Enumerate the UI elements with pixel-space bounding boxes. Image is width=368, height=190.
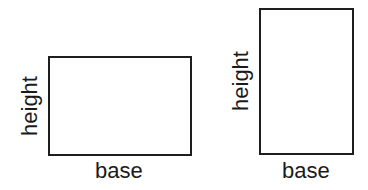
tall-rectangle (259, 8, 354, 155)
wide-rectangle (48, 56, 192, 156)
tall-rectangle-height-label: height (230, 51, 252, 111)
tall-rectangle-base-label: base (282, 160, 330, 182)
wide-rectangle-base-label: base (95, 160, 143, 182)
wide-rectangle-height-label: height (19, 76, 41, 136)
